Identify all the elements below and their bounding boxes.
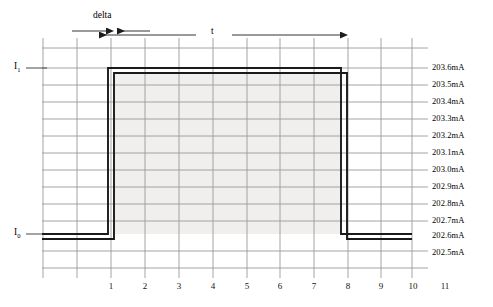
x-tick-label: 8 <box>341 281 355 291</box>
pulse-fill-region <box>113 73 341 234</box>
current-level-label-i1: I1 <box>14 61 20 73</box>
y-value-label: 203.1mA <box>432 147 465 157</box>
waveform-diagram: delta t I1 I0 203.6mA 203.5mA 203.4mA 20… <box>0 0 493 307</box>
y-value-label: 203.2mA <box>432 130 465 140</box>
y-value-label: 202.5mA <box>432 247 465 257</box>
x-tick-label: 5 <box>240 281 254 291</box>
y-value-label: 202.8mA <box>432 198 465 208</box>
t-label: t <box>209 26 216 36</box>
diagram-canvas <box>0 0 493 307</box>
y-value-label: 203.4mA <box>432 96 465 106</box>
y-value-label: 203.0mA <box>432 164 465 174</box>
x-tick-label: 7 <box>307 281 321 291</box>
y-value-label: 202.6mA <box>432 230 465 240</box>
x-tick-label: 1 <box>104 281 118 291</box>
y-value-label: 203.5mA <box>432 79 465 89</box>
i1-subscript: 1 <box>17 66 20 73</box>
x-tick-label: 4 <box>206 281 220 291</box>
x-tick-label: 10 <box>406 281 420 291</box>
y-value-label: 202.9mA <box>432 181 465 191</box>
x-tick-label: 3 <box>172 281 186 291</box>
x-tick-label: 6 <box>273 281 287 291</box>
x-tick-label: 2 <box>138 281 152 291</box>
delta-label: delta <box>91 10 113 20</box>
y-value-label: 202.7mA <box>432 215 465 225</box>
y-value-label: 203.6mA <box>432 62 465 72</box>
y-value-label: 203.3mA <box>432 113 465 123</box>
current-level-label-i0: I0 <box>14 227 20 239</box>
x-tick-label: 11 <box>438 281 452 291</box>
i0-subscript: 0 <box>17 232 20 239</box>
x-tick-label: 9 <box>374 281 388 291</box>
